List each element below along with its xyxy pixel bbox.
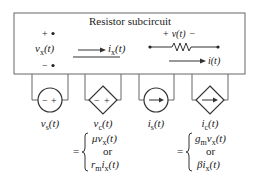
eq-or: or	[103, 145, 113, 157]
vs-label: vs(t)	[41, 117, 60, 132]
terminal-dot-minus	[51, 64, 54, 67]
minus-sign: −	[42, 95, 48, 106]
is-label: is(t)	[148, 117, 165, 132]
brace-icon	[186, 133, 192, 171]
subcircuit-title: Resistor subcircuit	[89, 15, 171, 27]
resistor-zigzag-icon	[150, 43, 218, 51]
resistor: +v(t)− i(t)	[148, 28, 220, 67]
independent-current-source: is(t)	[144, 88, 168, 132]
port-minus: −	[42, 60, 48, 71]
port-terminals: + vx(t) −	[35, 28, 55, 71]
eq-or: or	[206, 145, 216, 157]
dependent-voltage-source: − + vc(t)	[89, 86, 117, 132]
independent-voltage-source: − + vs(t)	[38, 88, 62, 132]
dependent-current-source: ic(t)	[196, 86, 224, 132]
eq-line-2: βix(t)	[196, 158, 220, 173]
ic-label: ic(t)	[201, 117, 218, 132]
current-equation: = gmvx(t) or βix(t)	[177, 132, 226, 173]
resistor-i-label: i(t)	[208, 55, 221, 67]
plus-sign: +	[104, 95, 110, 106]
plus-sign: +	[51, 95, 57, 106]
vc-label: vc(t)	[94, 117, 113, 132]
ix-current: ix(t)	[73, 42, 126, 57]
equals-sign: =	[73, 145, 79, 157]
voltage-equation: = μvx(t) or rmix(t)	[73, 132, 119, 173]
port-voltage-label: vx(t)	[35, 42, 55, 57]
brace-icon	[82, 133, 88, 171]
eq-line-2: rmix(t)	[91, 158, 119, 173]
arrow-right-icon	[100, 48, 106, 53]
equals-sign: =	[177, 145, 183, 157]
terminal-dot-plus	[51, 32, 54, 35]
minus-sign: −	[94, 95, 100, 106]
resistor-v-label: +v(t)−	[163, 28, 196, 40]
circuit-diagram: Resistor subcircuit + vx(t) − ix(t) +v(t…	[0, 0, 257, 184]
arrow-right-icon	[200, 59, 206, 64]
port-plus: +	[42, 28, 48, 39]
ix-label: ix(t)	[108, 42, 126, 57]
